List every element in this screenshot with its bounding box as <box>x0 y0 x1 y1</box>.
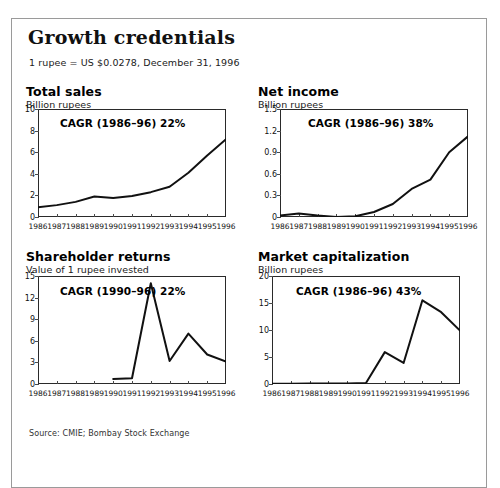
x-axis-label: 1988 <box>308 222 327 231</box>
x-axis-label: 1996 <box>450 389 469 398</box>
source-note: Source: CMIE; Bombay Stock Exchange <box>29 429 190 438</box>
y-axis-tick <box>35 384 39 385</box>
y-axis-label: 12 <box>9 293 35 302</box>
chart-title: Market capitalization <box>258 249 409 264</box>
y-axis-label: 15 <box>9 272 35 281</box>
x-axis-label: 1992 <box>141 389 160 398</box>
x-axis-label: 1996 <box>216 222 235 231</box>
y-axis-label: 1.2 <box>251 126 277 135</box>
plot-area: 0510152019861987198819891990199119921993… <box>258 276 470 406</box>
plot-area: 0369121519861987198819891990199119921993… <box>26 276 236 406</box>
x-axis-label: 1995 <box>198 389 217 398</box>
x-axis-label: 1988 <box>66 222 85 231</box>
x-axis-label: 1989 <box>319 389 338 398</box>
y-axis-label: 4 <box>9 169 35 178</box>
y-axis-tick <box>277 217 281 218</box>
x-axis-label: 1987 <box>47 222 66 231</box>
y-axis-label: 10 <box>9 105 35 114</box>
chart-title: Net income <box>258 84 339 99</box>
x-axis-label: 1996 <box>458 222 477 231</box>
x-axis-label: 1996 <box>216 389 235 398</box>
chart-title: Shareholder returns <box>26 249 171 264</box>
chart-shareholder-returns: Shareholder returnsValue of 1 rupee inve… <box>26 249 171 275</box>
y-axis-label: 6 <box>9 336 35 345</box>
y-axis-label: 3 <box>9 358 35 367</box>
y-axis-label: 0 <box>9 380 35 389</box>
x-axis-label: 1991 <box>364 222 383 231</box>
x-axis-label: 1995 <box>432 389 451 398</box>
y-axis-tick <box>35 217 39 218</box>
y-axis-label: 2 <box>9 191 35 200</box>
x-axis-label: 1993 <box>394 389 413 398</box>
x-axis-label: 1994 <box>179 222 198 231</box>
x-axis-label: 1994 <box>421 222 440 231</box>
chart-subtitle: Billion rupees <box>258 264 409 275</box>
x-axis-label: 1987 <box>289 222 308 231</box>
y-axis-label: 9 <box>9 315 35 324</box>
x-axis-label: 1993 <box>160 389 179 398</box>
x-axis-label: 1991 <box>122 222 141 231</box>
x-axis-label: 1991 <box>122 389 141 398</box>
x-axis-label: 1992 <box>375 389 394 398</box>
x-axis-label: 1992 <box>141 222 160 231</box>
x-axis-label: 1993 <box>160 222 179 231</box>
y-axis-label: 10 <box>243 326 269 335</box>
x-axis-label: 1986 <box>28 389 47 398</box>
x-axis-label: 1986 <box>262 389 281 398</box>
cagr-annotation: CAGR (1990–96) 22% <box>60 285 185 297</box>
x-axis-label: 1994 <box>413 389 432 398</box>
y-axis-label: 0 <box>251 213 277 222</box>
y-axis-label: 20 <box>243 272 269 281</box>
x-axis-label: 1989 <box>85 389 104 398</box>
x-axis-label: 1994 <box>179 389 198 398</box>
chart-total-sales: Total salesBillion rupees024681019861987… <box>26 84 102 110</box>
x-axis-label: 1990 <box>104 222 123 231</box>
chart-net-income: Net incomeBillion rupees00.30.60.91.21.5… <box>258 84 339 110</box>
x-axis-label: 1995 <box>198 222 217 231</box>
exchange-rate-note: 1 rupee = US $0.0278, December 31, 1996 <box>29 57 240 68</box>
cagr-annotation: CAGR (1986–96) 43% <box>296 285 421 297</box>
cagr-annotation: CAGR (1986–96) 38% <box>308 117 433 129</box>
y-axis-label: 0.9 <box>251 148 277 157</box>
y-axis-label: 0.6 <box>251 169 277 178</box>
y-axis-label: 6 <box>9 148 35 157</box>
x-axis-label: 1990 <box>104 389 123 398</box>
x-axis-label: 1987 <box>281 389 300 398</box>
cagr-annotation: CAGR (1986–96) 22% <box>60 117 185 129</box>
x-axis-label: 1989 <box>327 222 346 231</box>
plot-area: 0246810198619871988198919901991199219931… <box>26 109 236 239</box>
x-axis-label: 1988 <box>66 389 85 398</box>
x-axis-label: 1986 <box>270 222 289 231</box>
x-axis-label: 1992 <box>383 222 402 231</box>
x-axis-label: 1987 <box>47 389 66 398</box>
x-axis-label: 1991 <box>356 389 375 398</box>
y-axis-label: 0 <box>9 213 35 222</box>
chart-title: Total sales <box>26 84 102 99</box>
y-axis-label: 8 <box>9 126 35 135</box>
x-axis-label: 1995 <box>440 222 459 231</box>
x-axis-label: 1989 <box>85 222 104 231</box>
y-axis-label: 0.3 <box>251 191 277 200</box>
page-title: Growth credentials <box>28 26 235 48</box>
plot-area: 00.30.60.91.21.5198619871988198919901991… <box>258 109 478 239</box>
chart-market-capitalization: Market capitalizationBillion rupees05101… <box>258 249 409 275</box>
y-axis-tick <box>269 384 273 385</box>
chart-subtitle: Value of 1 rupee invested <box>26 264 171 275</box>
x-axis-label: 1986 <box>28 222 47 231</box>
y-axis-label: 0 <box>243 380 269 389</box>
y-axis-label: 15 <box>243 299 269 308</box>
x-axis-label: 1990 <box>346 222 365 231</box>
x-axis-label: 1993 <box>402 222 421 231</box>
y-axis-label: 1.5 <box>251 105 277 114</box>
x-axis-label: 1988 <box>300 389 319 398</box>
y-axis-label: 5 <box>243 353 269 362</box>
x-axis-label: 1990 <box>338 389 357 398</box>
